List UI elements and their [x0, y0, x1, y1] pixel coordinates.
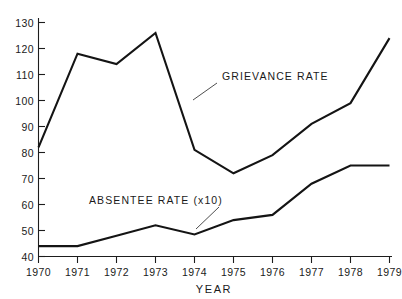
x-axis-tick-labels: 1970 1971 1972 1973 1974 1975 1976 1977 …: [26, 266, 402, 278]
y-tick-label: 50: [22, 225, 34, 237]
y-axis-tick-labels: 130 120 110 100 90 80 70 60 50 40: [15, 17, 34, 263]
y-tick-label: 80: [22, 147, 34, 159]
x-tick-label: 1977: [299, 266, 324, 278]
x-tick-label: 1973: [143, 266, 168, 278]
series-line-grievance-rate: [39, 33, 390, 173]
y-tick-label: 120: [15, 43, 34, 55]
x-tick-label: 1978: [338, 266, 363, 278]
x-tick-label: 1976: [260, 266, 285, 278]
grievance-rate-label: GRIEVANCE RATE: [222, 70, 329, 82]
y-tick-label: 60: [22, 199, 34, 211]
y-tick-label: 90: [22, 121, 34, 133]
y-tick-label: 70: [22, 173, 34, 185]
y-tick-label: 40: [22, 251, 34, 263]
y-tick-label: 100: [15, 95, 34, 107]
x-tick-label: 1971: [65, 266, 90, 278]
grievance-label-leader-line: [193, 83, 217, 100]
y-tick-label: 130: [15, 17, 34, 29]
x-tick-label: 1979: [377, 266, 402, 278]
line-chart-plot: 130 120 110 100 90 80 70 60 50 40 1970: [0, 0, 402, 299]
x-axis-ticks: [39, 257, 390, 264]
x-tick-label: 1975: [221, 266, 246, 278]
chart-container: 130 120 110 100 90 80 70 60 50 40 1970: [0, 0, 402, 299]
x-tick-label: 1970: [26, 266, 51, 278]
x-tick-label: 1972: [104, 266, 129, 278]
x-axis-title: YEAR: [196, 283, 232, 295]
absentee-rate-label: ABSENTEE RATE (x10): [89, 194, 223, 206]
x-tick-label: 1974: [182, 266, 207, 278]
y-tick-label: 110: [16, 69, 34, 81]
